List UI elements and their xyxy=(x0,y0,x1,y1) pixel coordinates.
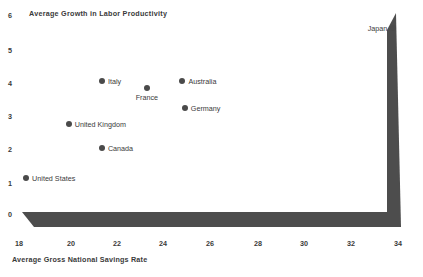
chart-title: Average Growth in Labor Productivity xyxy=(29,9,167,18)
data-label-united-kingdom: United Kingdom xyxy=(75,120,126,129)
data-label-germany: Germany xyxy=(191,103,221,112)
data-label-france: France xyxy=(136,93,158,102)
x-tick-20: 20 xyxy=(58,239,84,248)
x-tick-30: 30 xyxy=(291,239,317,248)
y-tick-1: 1 xyxy=(8,179,20,188)
data-label-canada: Canada xyxy=(108,143,133,152)
data-point-canada[interactable] xyxy=(99,145,105,151)
y-tick-4: 4 xyxy=(8,79,20,88)
data-point-italy[interactable] xyxy=(99,78,105,84)
data-label-australia: Australia xyxy=(188,77,216,86)
y-tick-5: 5 xyxy=(8,46,20,55)
x-axis-band xyxy=(22,212,400,227)
x-tick-28: 28 xyxy=(245,239,271,248)
x-tick-18: 18 xyxy=(6,239,32,248)
y-tick-0: 0 xyxy=(8,210,20,219)
data-label-united-states: United States xyxy=(32,173,75,182)
chart-screenshot: 6 5 4 3 2 1 0 Average Growth in Labor Pr… xyxy=(0,0,423,277)
x-axis-title: Average Gross National Savings Rate xyxy=(12,255,147,264)
x-tick-24: 24 xyxy=(150,239,176,248)
data-point-united-states[interactable] xyxy=(23,175,29,181)
axis-3d-frame xyxy=(0,0,423,277)
data-label-japan: Japan xyxy=(368,24,388,33)
x-tick-26: 26 xyxy=(197,239,223,248)
data-point-united-kingdom[interactable] xyxy=(66,121,72,127)
y-tick-6: 6 xyxy=(8,11,20,20)
data-point-australia[interactable] xyxy=(179,78,185,84)
x-tick-32: 32 xyxy=(338,239,364,248)
data-point-japan[interactable] xyxy=(390,25,396,31)
data-point-france[interactable] xyxy=(144,85,150,91)
data-point-germany[interactable] xyxy=(182,105,188,111)
y-axis-band xyxy=(387,13,401,227)
y-tick-3: 3 xyxy=(8,112,20,121)
scatter-plot: 6 5 4 3 2 1 0 Average Growth in Labor Pr… xyxy=(0,0,423,277)
x-tick-22: 22 xyxy=(104,239,130,248)
y-tick-2: 2 xyxy=(8,145,20,154)
data-label-italy: Italy xyxy=(108,77,121,86)
x-tick-34: 34 xyxy=(385,239,411,248)
